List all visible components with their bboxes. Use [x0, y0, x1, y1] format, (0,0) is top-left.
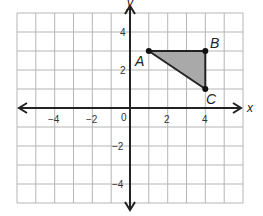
y-tick-label: 2: [120, 65, 126, 76]
coordinate-plane: x y −4 −2 0 2 4 4 2 −2 −4 A B C: [0, 0, 263, 216]
y-axis-label: y: [126, 0, 134, 10]
x-tick-label: 2: [164, 114, 170, 125]
point-c-label: C: [206, 91, 217, 107]
y-tick-label: −4: [112, 179, 124, 190]
x-tick-label: 4: [202, 114, 208, 125]
point-b-label: B: [210, 35, 219, 51]
origin-label: 0: [121, 112, 127, 123]
x-axis-label: x: [246, 101, 254, 115]
x-tick-label: −2: [86, 114, 98, 125]
point-a-label: A: [134, 53, 144, 69]
y-tick-label: 4: [120, 27, 126, 38]
x-tick-label: −4: [48, 114, 60, 125]
point-b: [202, 48, 208, 54]
y-tick-label: −2: [112, 141, 124, 152]
point-a: [146, 48, 152, 54]
